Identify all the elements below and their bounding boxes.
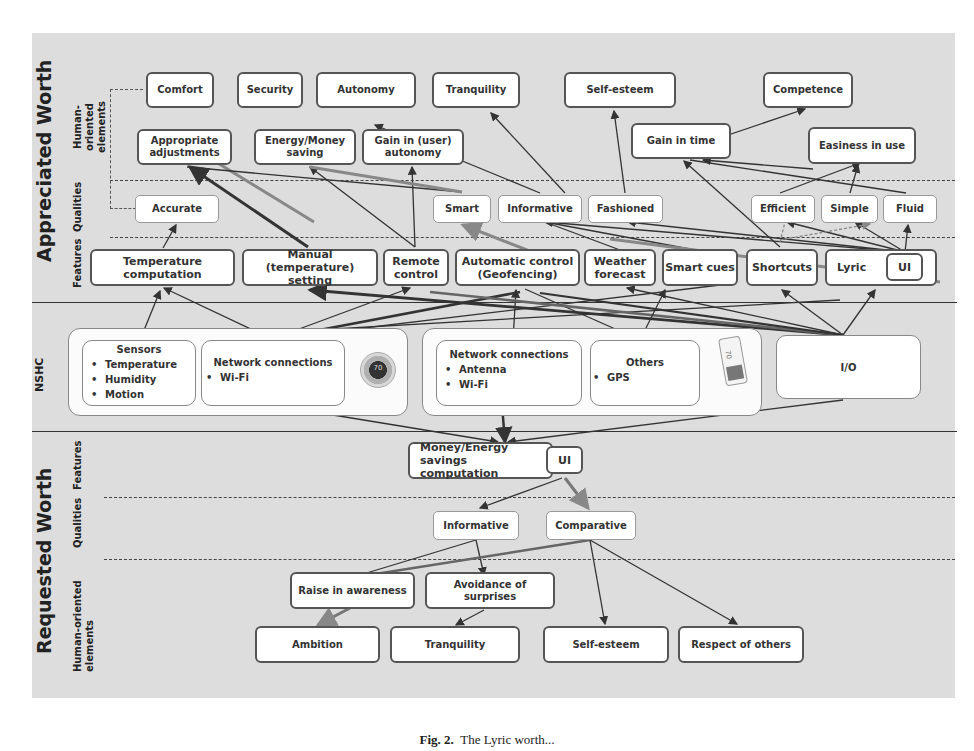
sensor-item: Humidity xyxy=(105,372,195,387)
node-competence[interactable]: Competence xyxy=(763,72,853,108)
thermostat-display: 70 xyxy=(361,364,395,372)
node-quality-informative[interactable]: Informative xyxy=(498,195,582,223)
network-item: Wi-Fi xyxy=(459,377,581,392)
node-quality-fashioned[interactable]: Fashioned xyxy=(588,195,663,223)
node-quality-simple[interactable]: Simple xyxy=(821,195,878,223)
node-security[interactable]: Security xyxy=(237,72,303,108)
node-appropriate-adjustments[interactable]: Appropriate adjustments xyxy=(137,129,232,165)
node-feature-weather-forecast[interactable]: Weather forecast xyxy=(584,249,656,286)
nshc-phone-network-box[interactable]: Network connections Antenna Wi-Fi xyxy=(436,340,582,406)
node-raise-in-awareness[interactable]: Raise in awareness xyxy=(290,572,415,609)
node-rq-feature-ui[interactable]: UI xyxy=(546,446,583,474)
node-autonomy[interactable]: Autonomy xyxy=(316,72,416,108)
node-feature-shortcuts[interactable]: Shortcuts xyxy=(746,249,818,286)
node-feature-ui[interactable]: UI xyxy=(886,253,923,281)
network-title: Network connections xyxy=(437,347,581,362)
node-quality-fluid[interactable]: Fluid xyxy=(883,195,937,223)
node-avoidance-of-surprises[interactable]: Avoidance of surprises xyxy=(425,572,555,609)
node-gain-in-user-autonomy[interactable]: Gain in (user) autonomy xyxy=(362,129,464,165)
node-tranquility[interactable]: Tranquility xyxy=(432,72,520,108)
node-comfort[interactable]: Comfort xyxy=(146,72,214,108)
nshc-io-box[interactable]: I/O xyxy=(776,335,921,399)
node-self-esteem[interactable]: Self-esteem xyxy=(564,72,676,108)
money-energy-label: Money/Energy savings computation xyxy=(420,441,512,480)
io-label: I/O xyxy=(841,360,857,375)
phone-screen-bar xyxy=(726,365,744,382)
sensor-item: Temperature xyxy=(105,357,195,372)
node-feature-remote-control[interactable]: Remote control xyxy=(383,249,449,286)
nshc-thermostat-network-box[interactable]: Network connections Wi-Fi xyxy=(201,340,345,406)
others-item: GPS xyxy=(607,370,699,385)
node-rq-quality-comparative[interactable]: Comparative xyxy=(546,511,636,540)
node-rq-feature-money-energy[interactable]: Money/Energy savings computation xyxy=(408,442,553,479)
node-feature-smart-cues[interactable]: Smart cues xyxy=(662,249,738,286)
node-quality-smart[interactable]: Smart xyxy=(433,195,491,223)
node-quality-accurate[interactable]: Accurate xyxy=(135,195,219,223)
node-rq-tranquility[interactable]: Tranquility xyxy=(390,626,520,663)
network-item: Wi-Fi xyxy=(220,370,344,385)
node-easiness-in-use[interactable]: Easiness in use xyxy=(808,127,916,164)
node-gain-in-time[interactable]: Gain in time xyxy=(631,123,731,159)
node-feature-manual-setting[interactable]: Manual (temperature) setting xyxy=(242,249,378,286)
network-title: Network connections xyxy=(202,355,344,370)
network-item: Antenna xyxy=(459,362,581,377)
caption-text: The Lyric worth... xyxy=(460,732,554,747)
node-feature-temperature-computation[interactable]: Temperature computation xyxy=(90,249,235,286)
node-rq-quality-informative[interactable]: Informative xyxy=(433,511,519,540)
figure-caption: Fig. 2. The Lyric worth... xyxy=(0,732,974,748)
node-respect-of-others[interactable]: Respect of others xyxy=(678,626,804,663)
node-rq-self-esteem[interactable]: Self-esteem xyxy=(543,626,669,663)
sensor-item: Motion xyxy=(105,387,195,402)
others-title: Others xyxy=(591,355,699,370)
node-feature-automatic-control[interactable]: Automatic control (Geofencing) xyxy=(455,249,580,286)
caption-label: Fig. 2. xyxy=(419,732,453,747)
node-ambition[interactable]: Ambition xyxy=(255,626,380,663)
phone-display: 70 xyxy=(724,350,733,360)
node-quality-efficient[interactable]: Efficient xyxy=(751,195,815,223)
sensors-title: Sensors xyxy=(83,342,195,357)
nshc-others-box[interactable]: Others GPS xyxy=(590,340,700,406)
node-energy-money-saving[interactable]: Energy/Money saving xyxy=(254,129,356,165)
thermostat-icon: 70 xyxy=(360,352,396,388)
nshc-sensors-box[interactable]: Sensors Temperature Humidity Motion xyxy=(82,340,196,406)
